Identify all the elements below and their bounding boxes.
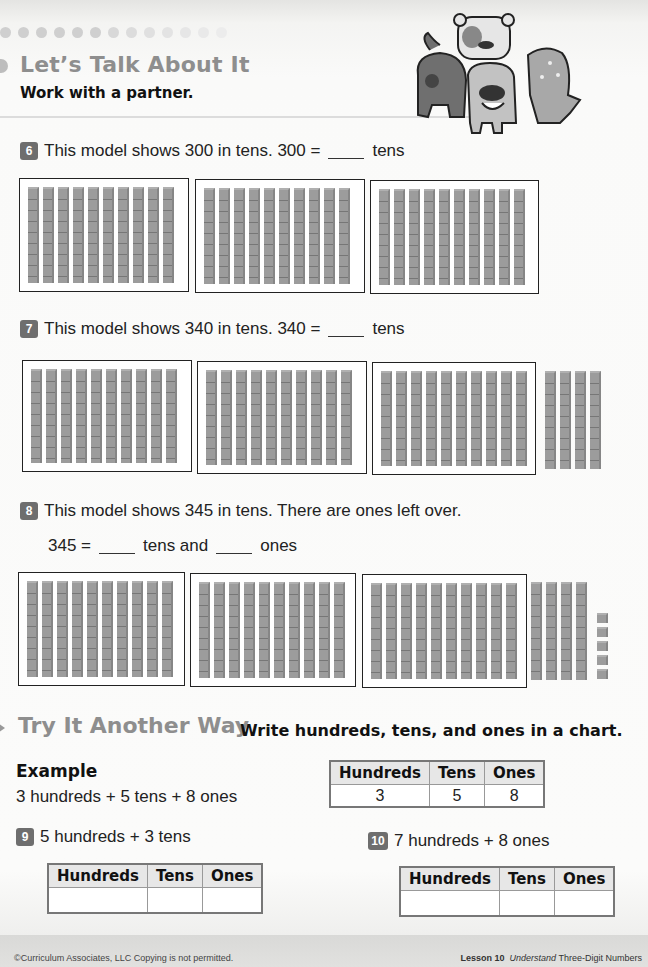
question-number-badge: 6: [20, 142, 38, 160]
dot-icon: [180, 27, 191, 38]
hundred-group-box: [190, 573, 356, 687]
ten-rod: [401, 583, 412, 679]
question-number-badge: 10: [368, 832, 388, 850]
ten-rod: [57, 581, 68, 677]
header-tens: Tens: [499, 867, 554, 891]
divider: [0, 116, 470, 118]
ten-rod: [469, 189, 480, 285]
answer-blank[interactable]: [328, 322, 364, 337]
ten-rod: [501, 371, 512, 466]
header-tens: Tens: [147, 864, 202, 888]
ten-rod: [163, 187, 174, 283]
dot-icon: [144, 27, 155, 38]
ten-rod: [441, 371, 452, 466]
ten-rod: [426, 371, 437, 466]
ten-rod: [73, 187, 84, 283]
ten-rod: [118, 187, 129, 283]
dot-icon: [216, 27, 227, 38]
try-another-way-title: Try It Another Way: [18, 713, 249, 738]
input-hundreds[interactable]: [400, 891, 499, 917]
equation-middle: tens and: [143, 536, 208, 556]
ten-rod: [91, 369, 102, 463]
answer-blank[interactable]: [328, 144, 364, 159]
ten-rod: [76, 369, 87, 463]
ten-rod: [394, 189, 405, 285]
ten-rod: [396, 371, 407, 466]
ten-rod: [371, 583, 382, 679]
ten-rod: [486, 371, 497, 466]
question-number-badge: 7: [20, 320, 38, 338]
header-hundreds: Hundreds: [330, 761, 429, 785]
ten-rod: [27, 581, 38, 677]
ten-rod: [484, 189, 495, 285]
input-tens[interactable]: [147, 888, 202, 914]
ten-rod: [102, 581, 113, 677]
section-arrow-icon: [0, 723, 5, 733]
tens-answer-blank[interactable]: [99, 539, 135, 554]
ten-rod: [446, 583, 457, 679]
hundred-group-box: [197, 361, 367, 474]
section-subtitle: Work with a partner.: [20, 84, 194, 102]
ten-rod: [545, 371, 556, 469]
input-hundreds[interactable]: [48, 888, 147, 914]
lesson-verb: Understand: [510, 953, 557, 963]
ten-rod: [289, 582, 300, 678]
ten-rod: [339, 188, 350, 284]
header-hundreds: Hundreds: [400, 867, 499, 891]
equation-start: 345 =: [48, 536, 91, 556]
ten-rod: [264, 188, 275, 284]
question-expression: 7 hundreds + 8 ones: [394, 831, 549, 851]
cell-ones: 8: [484, 785, 544, 808]
one-cube: [597, 627, 608, 637]
ten-rod: [326, 370, 337, 465]
question-text: This model shows 345 in tens. There are …: [44, 501, 461, 521]
question-text-suffix: tens: [372, 319, 404, 339]
ten-rod: [199, 582, 210, 678]
ten-rod: [236, 370, 247, 465]
ten-rod: [576, 582, 587, 680]
ten-rod: [296, 370, 307, 465]
section-title: Let’s Talk About It: [20, 52, 250, 77]
ten-rod: [439, 189, 450, 285]
ones-answer-blank[interactable]: [216, 539, 252, 554]
cell-tens: 5: [429, 785, 484, 808]
dot-icon: [18, 27, 29, 38]
ten-rod: [546, 582, 557, 680]
ten-rod: [87, 581, 98, 677]
try-another-way-instruction: Write hundreds, tens, and ones in a char…: [240, 721, 623, 740]
ten-rod: [249, 188, 260, 284]
header-tens: Tens: [429, 761, 484, 785]
ten-rod: [309, 188, 320, 284]
lesson-info: Lesson 10 Understand Three-Digit Numbers: [461, 953, 642, 963]
input-tens[interactable]: [499, 891, 554, 917]
ten-rod: [221, 370, 232, 465]
dot-border-decoration: [0, 27, 227, 38]
ten-rod: [386, 583, 397, 679]
ten-rod: [229, 582, 240, 678]
ten-rod: [411, 371, 422, 466]
ten-rod: [31, 369, 42, 463]
question-7: 7 This model shows 340 in tens. 340 = te…: [20, 319, 405, 339]
ten-rod: [531, 582, 542, 680]
ten-rod: [162, 581, 173, 677]
ten-rod: [590, 371, 601, 469]
dot-icon: [162, 27, 173, 38]
input-ones[interactable]: [554, 891, 614, 917]
ten-rod: [341, 370, 352, 465]
ten-rod: [476, 583, 487, 679]
ten-rod: [319, 582, 330, 678]
ten-rod: [121, 369, 132, 463]
input-ones[interactable]: [202, 888, 262, 914]
example-expression: 3 hundreds + 5 tens + 8 ones: [16, 787, 237, 807]
question-8: 8 This model shows 345 in tens. There ar…: [20, 501, 461, 521]
one-cube: [597, 655, 608, 665]
ten-rod: [281, 370, 292, 465]
header-ones: Ones: [484, 761, 544, 785]
ten-rod: [311, 370, 322, 465]
equation-end: ones: [260, 536, 297, 556]
one-cube: [597, 613, 608, 623]
ten-rod: [106, 369, 117, 463]
ten-rod: [103, 187, 114, 283]
ten-rod: [133, 187, 144, 283]
ten-rod: [461, 583, 472, 679]
